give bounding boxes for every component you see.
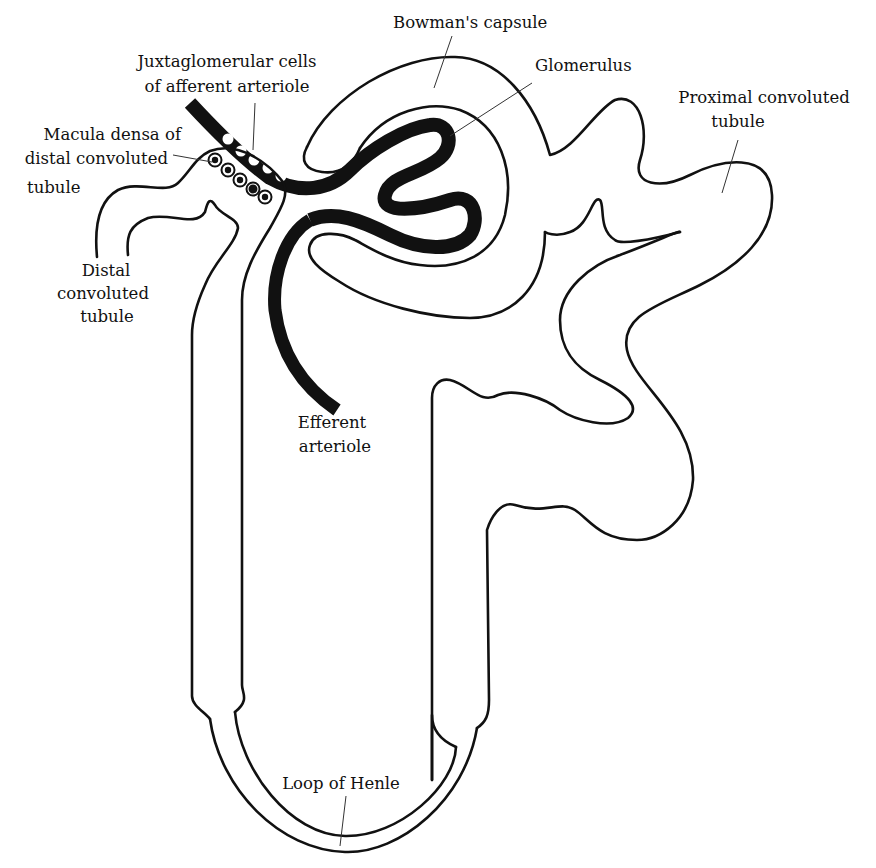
label-proximal-line2: tubule (711, 112, 765, 131)
label-juxtaglomerular-line1: Juxtaglomerular cells (136, 52, 317, 71)
label-macula-densa-line1: Macula densa of (43, 125, 182, 144)
efferent-arteriole (275, 220, 337, 410)
label-macula-densa-line2: distal convoluted (25, 149, 169, 168)
ascending-limb-wall (432, 715, 456, 780)
label-juxtaglomerular-line2: of afferent arteriole (144, 77, 309, 96)
label-efferent-line2: arteriole (299, 437, 371, 456)
label-distal-line1: Distal (82, 261, 131, 280)
proximal-tubule-lobe (545, 199, 680, 242)
distal-convoluted-tubule-inner (128, 201, 238, 719)
label-efferent-line1: Efferent (298, 413, 367, 432)
label-distal-line3: tubule (80, 307, 134, 326)
label-glomerulus: Glomerulus (535, 56, 632, 75)
label-proximal-line1: Proximal convoluted (678, 88, 850, 107)
label-distal-line2: convoluted (57, 284, 149, 303)
nephron-diagram: Bowman's capsule Glomerulus Juxtaglomeru… (0, 0, 876, 868)
bowmans-capsule-outer-wall (307, 57, 772, 728)
label-loop-of-henle: Loop of Henle (282, 774, 400, 793)
label-bowmans-capsule: Bowman's capsule (393, 13, 547, 32)
label-macula-densa-line3: tubule (27, 178, 81, 197)
